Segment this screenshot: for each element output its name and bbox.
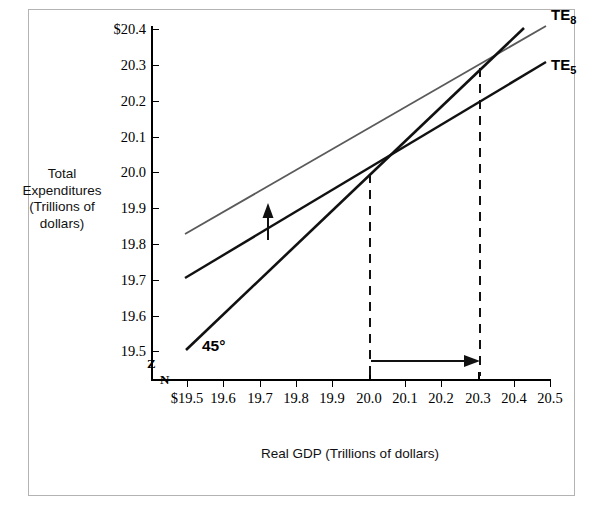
figure-container: $20.4 20.3 20.2 20.1 20.0 19.9 19.8 19.7… — [0, 0, 594, 516]
angle-label-45-degree: 45° — [202, 337, 225, 355]
shift-up-arrow-head — [263, 203, 274, 218]
series-label-te8-text: TE — [551, 6, 570, 23]
y-axis-title-line-2: Expenditures — [14, 183, 110, 200]
curves-overlay — [0, 0, 594, 516]
y-axis-title: Total Expenditures (Trillions of dollars… — [14, 166, 110, 232]
series-line-te5 — [185, 62, 546, 278]
plot-area: $20.4 20.3 20.2 20.1 20.0 19.9 19.8 19.7… — [0, 0, 594, 516]
x-axis-title: Real GDP (Trillions of dollars) — [150, 446, 550, 461]
series-line-45-degree — [186, 28, 524, 350]
gdp-increase-arrow-head — [464, 355, 480, 367]
y-axis-title-line-4: dollars) — [14, 216, 110, 233]
y-axis-title-line-3: (Trillions of — [14, 199, 110, 216]
series-label-te5-text: TE — [551, 56, 570, 73]
series-label-te5-subscript: 5 — [570, 64, 576, 76]
series-label-te8: TE8 — [551, 6, 576, 26]
series-label-te8-subscript: 8 — [570, 14, 576, 26]
series-label-te5: TE5 — [551, 56, 576, 76]
y-axis-title-line-1: Total — [14, 166, 110, 183]
